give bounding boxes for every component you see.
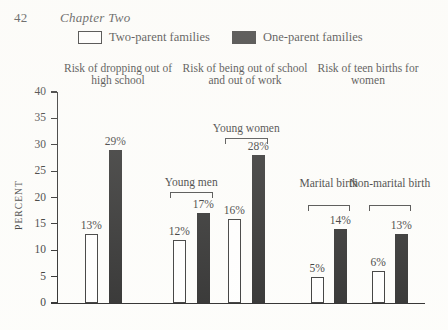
bar-one-parent-0-value-label: 29% [100, 135, 131, 147]
y-tick-label-0: 0 [6, 296, 46, 308]
y-tick-label-10: 10 [6, 243, 46, 255]
bar-two-parent-3 [311, 277, 324, 303]
bar-two-parent-1-value-label: 12% [164, 225, 195, 237]
bar-two-parent-3-value-label: 5% [302, 262, 333, 274]
bar-one-parent-4-value-label: 13% [386, 219, 417, 231]
y-axis-ticks: 0510152025303540 [0, 0, 57, 330]
y-tick-label-20: 20 [6, 191, 46, 203]
book-page: 42 Chapter Two Two-parent families One-p… [0, 0, 448, 330]
y-tick-label-25: 25 [6, 164, 46, 176]
y-axis-line [57, 92, 58, 304]
x-axis-line [57, 303, 425, 304]
y-tick-label-30: 30 [6, 138, 46, 150]
bar-chart: 0510152025303540 PERCENT 13%29%12%17%16%… [0, 0, 448, 330]
bracket-group-1 [170, 192, 213, 198]
y-tick-label-35: 35 [6, 111, 46, 123]
bar-two-parent-4 [372, 271, 385, 303]
bar-one-parent-3 [334, 229, 347, 303]
bar-two-parent-1 [173, 240, 186, 303]
bracket-label-group-1: Young men [144, 176, 239, 188]
y-tick-15 [51, 223, 57, 224]
bracket-label-group-4: Non-marital birth [343, 177, 437, 189]
y-tick-20 [51, 197, 57, 198]
bracket-group-4 [369, 205, 411, 211]
bracket-group-3 [308, 205, 350, 211]
bar-one-parent-1 [197, 213, 210, 303]
y-tick-0 [51, 302, 57, 303]
y-tick-label-5: 5 [6, 270, 46, 282]
bar-one-parent-0 [109, 150, 122, 303]
y-tick-5 [51, 276, 57, 277]
y-tick-30 [51, 144, 57, 145]
bar-two-parent-2-value-label: 16% [219, 204, 250, 216]
bracket-label-group-2: Young women [199, 122, 294, 134]
y-tick-35 [51, 118, 57, 119]
bar-one-parent-1-value-label: 17% [188, 198, 219, 210]
y-tick-label-15: 15 [6, 217, 46, 229]
bar-two-parent-4-value-label: 6% [363, 256, 394, 268]
y-tick-40 [51, 91, 57, 92]
bar-one-parent-3-value-label: 14% [325, 214, 356, 226]
y-tick-10 [51, 250, 57, 251]
bracket-group-2 [225, 138, 268, 144]
bar-two-parent-0-value-label: 13% [76, 219, 107, 231]
bar-two-parent-0 [85, 234, 98, 303]
bar-one-parent-4 [395, 234, 408, 303]
bar-two-parent-2 [228, 219, 241, 303]
y-tick-label-40: 40 [6, 85, 46, 97]
y-tick-25 [51, 171, 57, 172]
y-axis-title: PERCENT [14, 170, 24, 240]
bar-one-parent-2 [252, 155, 265, 303]
